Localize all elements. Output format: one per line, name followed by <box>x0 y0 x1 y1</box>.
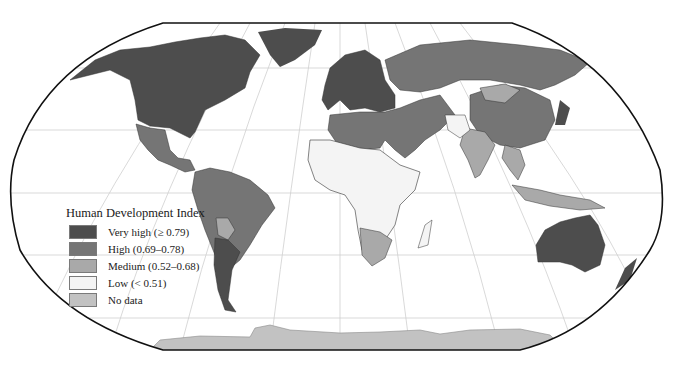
swatch-no-data <box>69 293 97 307</box>
legend-label: Medium (0.52–0.68) <box>108 260 199 272</box>
swatch-low <box>69 276 97 290</box>
legend-item-medium: Medium (0.52–0.68) <box>66 258 205 275</box>
legend-label: No data <box>108 294 143 306</box>
legend-item-low: Low (< 0.51) <box>66 274 205 291</box>
legend: Human Development Index Very high (≥ 0.7… <box>66 206 205 308</box>
map-body <box>0 0 674 374</box>
swatch-medium <box>69 259 97 273</box>
world-map <box>0 0 674 374</box>
legend-item-very-high: Very high (≥ 0.79) <box>66 224 205 241</box>
swatch-high <box>69 242 97 256</box>
legend-item-high: High (0.69–0.78) <box>66 241 205 258</box>
swatch-very-high <box>69 225 97 239</box>
legend-label: High (0.69–0.78) <box>108 243 184 255</box>
map-svg <box>0 0 674 374</box>
legend-item-no-data: No data <box>66 291 205 308</box>
legend-label: Very high (≥ 0.79) <box>108 226 189 238</box>
legend-label: Low (< 0.51) <box>108 277 166 289</box>
legend-title: Human Development Index <box>66 206 205 221</box>
